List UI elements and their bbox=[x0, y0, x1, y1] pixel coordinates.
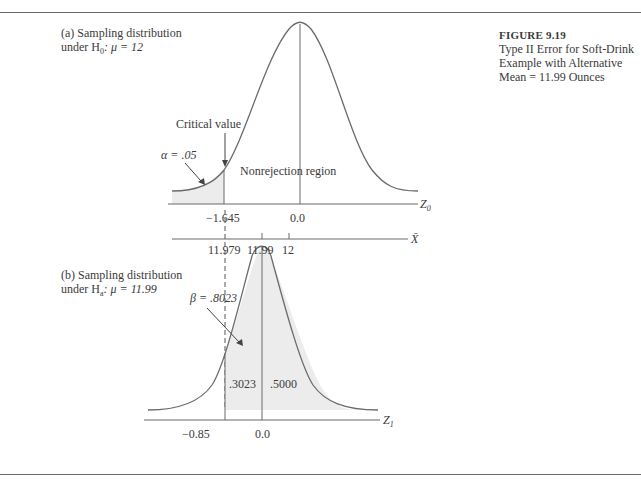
z0-tick-zero: 0.0 bbox=[290, 211, 305, 225]
panel-b-title: (b) Sampling distribution under Ha: μ = … bbox=[61, 268, 182, 301]
z1-tick-critical: −0.85 bbox=[182, 427, 210, 441]
area-left-label: .3023 bbox=[229, 377, 256, 391]
nonrejection-label: Nonrejection region bbox=[240, 164, 336, 178]
alpha-arrow bbox=[185, 163, 201, 181]
xbar-tick-1199: 11.99 bbox=[247, 243, 274, 257]
xbar-tick-11979: 11.979 bbox=[208, 243, 241, 257]
z0-tick-critical: −1.645 bbox=[206, 211, 240, 225]
alpha-label: α = .05 bbox=[161, 148, 196, 162]
beta-label: β = .8023 bbox=[190, 291, 237, 305]
xbar-tick-12: 12 bbox=[282, 243, 294, 257]
area-right-label: .5000 bbox=[270, 377, 297, 391]
z1-tick-zero: 0.0 bbox=[255, 427, 270, 441]
z1-axis-label: Z1 bbox=[383, 413, 394, 432]
critical-value-label: Critical value bbox=[176, 117, 241, 131]
panel-a-title: (a) Sampling distribution under H0: μ = … bbox=[61, 26, 182, 59]
z0-axis-label: Z0 bbox=[420, 197, 431, 216]
diagram-graphics bbox=[0, 0, 641, 494]
xbar-axis-label: X̄ bbox=[411, 232, 418, 246]
